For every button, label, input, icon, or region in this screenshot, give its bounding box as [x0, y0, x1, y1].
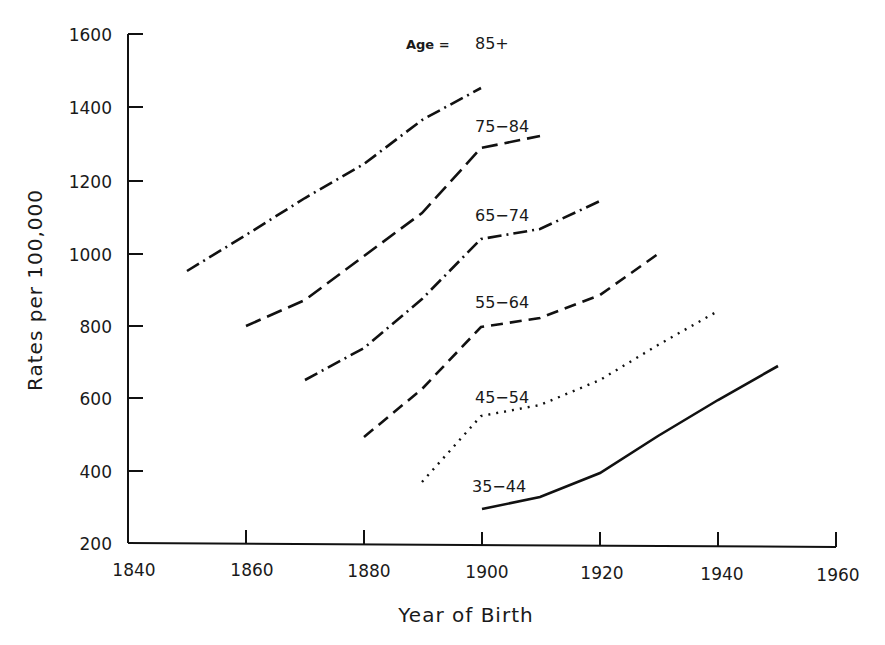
series-label-55-64: 55−64: [475, 293, 529, 312]
series-labels: Age = 85+ 75−84 65−74 55−64 45−54 35−44: [406, 34, 529, 496]
series-55-64-line: [364, 254, 658, 437]
y-tick-label: 800: [80, 317, 112, 337]
x-tick-label: 1940: [700, 564, 743, 584]
y-tick-label: 1600: [69, 25, 112, 45]
age-prefix-label: Age =: [406, 37, 450, 52]
x-tick-label: 1920: [580, 563, 623, 583]
series-45-54-line: [422, 311, 718, 482]
y-tick-labels: 1600 1400 1200 1000 800 600 400 200: [69, 25, 112, 554]
x-axis-title: Year of Birth: [397, 603, 533, 627]
y-tick-label: 200: [80, 534, 112, 554]
y-axis-title: Rates per 100,000: [23, 189, 47, 391]
series-65-74-line: [305, 201, 600, 380]
series-85plus-line: [187, 88, 481, 271]
axes: [128, 34, 836, 547]
series-label-35-44: 35−44: [472, 477, 526, 496]
y-tick-label: 1200: [69, 172, 112, 192]
x-tick-label: 1900: [465, 562, 508, 582]
x-tick-label: 1860: [230, 560, 273, 580]
y-tick-label: 1000: [69, 245, 112, 265]
series-label-65-74: 65−74: [475, 206, 529, 225]
series-label-85plus: 85+: [475, 34, 509, 53]
chart: 1600 1400 1200 1000 800 600 400 200 1840…: [0, 0, 885, 645]
x-tick-labels: 1840 1860 1880 1900 1920 1940 1960: [112, 560, 859, 585]
y-tick-label: 1400: [69, 98, 112, 118]
series-label-75-84: 75−84: [475, 117, 529, 136]
y-tick-label: 600: [80, 389, 112, 409]
x-tick-label: 1840: [112, 560, 155, 580]
series-label-45-54: 45−54: [475, 388, 529, 407]
x-tick-label: 1960: [816, 565, 859, 585]
y-tick-label: 400: [80, 462, 112, 482]
x-tick-label: 1880: [347, 561, 390, 581]
